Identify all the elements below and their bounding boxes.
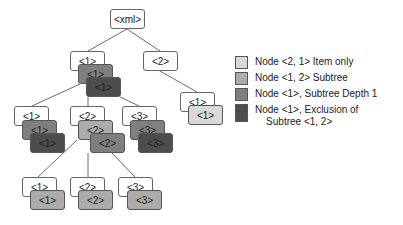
legend-item-subtree: Node <1, 2> Subtree (235, 72, 377, 85)
legend-item-subtree-depth1: Node <1>, Subtree Depth 1 (235, 88, 377, 101)
legend-label: Node <1>, Exclusion of Subtree <1, 2> (255, 104, 358, 128)
legend-swatch-gray (235, 88, 248, 101)
legend-item-item-only: Node <2, 1> Item only (235, 56, 377, 69)
node-2-1-item-only: <1> (188, 105, 223, 125)
node-1-1-exclusion: <1> (30, 133, 65, 153)
legend-swatch-dark (235, 104, 248, 122)
node-1-2-subtree-depth1: <2> (90, 133, 125, 153)
node-xml-root: <xml> (110, 9, 145, 29)
node-1-2-1-subtree: <1> (30, 190, 65, 210)
node-1-2-2-subtree: <2> (78, 190, 113, 210)
legend-label: Node <1>, Subtree Depth 1 (255, 88, 377, 100)
legend-item-exclusion: Node <1>, Exclusion of Subtree <1, 2> (235, 104, 377, 128)
legend-label: Node <1, 2> Subtree (255, 72, 348, 84)
legend-label: Node <2, 1> Item only (255, 56, 353, 68)
node-2: <2> (143, 51, 178, 71)
node-1-exclusion: <1> (86, 77, 121, 97)
node-1-2-3-subtree: <3> (127, 190, 162, 210)
legend: Node <2, 1> Item only Node <1, 2> Subtre… (235, 56, 377, 131)
node-1-3-exclusion: <3> (138, 133, 173, 153)
legend-swatch-mid (235, 72, 248, 85)
legend-swatch-light (235, 56, 248, 69)
